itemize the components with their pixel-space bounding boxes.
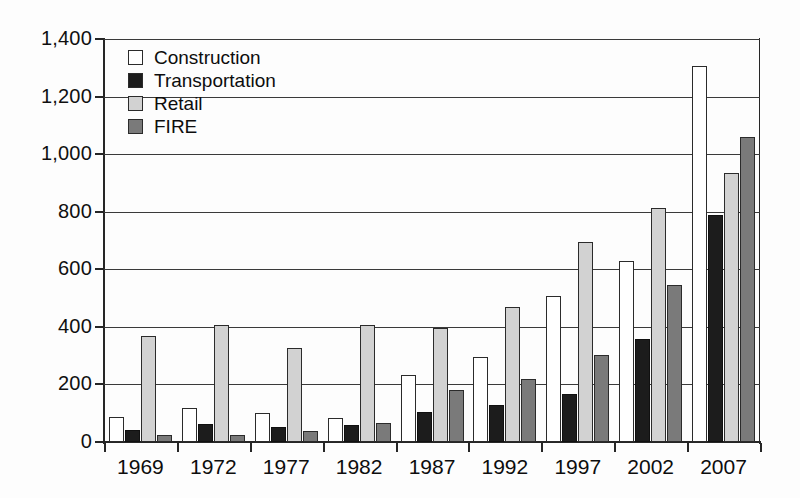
bar-fire-1972	[230, 435, 245, 442]
bar-transportation-1997	[562, 394, 577, 442]
bar-construction-2007	[692, 66, 707, 442]
x-axis-tick-mark	[614, 443, 616, 452]
bar-retail-1982	[360, 325, 375, 442]
y-axis-tick-label: 1,400	[41, 28, 92, 48]
bar-construction-1987	[401, 375, 416, 442]
x-axis-tick-label-1977: 1977	[250, 455, 323, 479]
legend-swatch-construction-icon	[128, 50, 143, 65]
bar-transportation-1977	[271, 427, 286, 442]
x-axis-tick-mark	[541, 443, 543, 452]
x-axis-tick-mark	[468, 443, 470, 452]
legend-swatch-retail-icon	[128, 96, 143, 111]
bar-construction-2002	[619, 261, 634, 442]
legend-swatch-fire-icon	[128, 119, 143, 134]
bar-fire-2007	[740, 137, 755, 442]
bar-fire-1997	[594, 355, 609, 442]
bar-group-2002	[619, 39, 682, 442]
bar-transportation-2002	[635, 339, 650, 442]
x-axis-tick-mark	[760, 443, 762, 452]
bar-construction-1992	[473, 357, 488, 442]
x-axis-tick-label-1972: 1972	[177, 455, 250, 479]
bar-retail-1997	[578, 242, 593, 442]
legend: ConstructionTransportationRetailFIRE	[128, 46, 378, 138]
x-axis-tick-label-1982: 1982	[323, 455, 396, 479]
y-axis: 02004006008001,0001,2001,400	[0, 0, 92, 498]
bar-transportation-1972	[198, 424, 213, 442]
x-axis-tick-label-1992: 1992	[468, 455, 541, 479]
bar-retail-1972	[214, 325, 229, 442]
bar-fire-1977	[303, 431, 318, 442]
y-axis-tick-label: 1,000	[41, 143, 92, 163]
legend-item-retail: Retail	[128, 92, 378, 115]
x-axis-tick-label-1997: 1997	[541, 455, 614, 479]
x-axis-tick-mark	[396, 443, 398, 452]
bar-retail-2002	[651, 208, 666, 442]
x-axis-tick-mark	[177, 443, 179, 452]
y-axis-tick-label: 200	[58, 373, 92, 393]
y-axis-tick-label: 400	[58, 316, 92, 336]
bar-fire-1969	[157, 435, 172, 442]
bar-construction-1977	[255, 413, 270, 442]
bar-transportation-1982	[344, 425, 359, 442]
bar-chart: 02004006008001,0001,2001,400 19691972197…	[0, 0, 800, 498]
x-axis-tick-mark	[323, 443, 325, 452]
bar-retail-1977	[287, 348, 302, 442]
bar-retail-1987	[433, 328, 448, 442]
bar-transportation-2007	[708, 215, 723, 442]
x-axis-tick-label-2002: 2002	[614, 455, 687, 479]
legend-label: Transportation	[154, 70, 276, 91]
bar-construction-1982	[328, 418, 343, 442]
bar-construction-1972	[182, 408, 197, 442]
legend-item-transportation: Transportation	[128, 69, 378, 92]
bar-group-1992	[473, 39, 536, 442]
bar-group-1997	[546, 39, 609, 442]
y-axis-tick-label: 600	[58, 258, 92, 278]
legend-label: Construction	[154, 47, 261, 68]
bar-transportation-1969	[125, 430, 140, 442]
y-axis-tick-label: 800	[58, 201, 92, 221]
bar-fire-1982	[376, 423, 391, 442]
bar-fire-2002	[667, 285, 682, 442]
x-axis-tick-label-1969: 1969	[104, 455, 177, 479]
legend-item-fire: FIRE	[128, 115, 378, 138]
bar-retail-1992	[505, 307, 520, 442]
legend-item-construction: Construction	[128, 46, 378, 69]
bar-transportation-1987	[417, 412, 432, 442]
bar-fire-1987	[449, 390, 464, 442]
bar-retail-2007	[724, 173, 739, 442]
x-axis-tick-mark	[104, 443, 106, 452]
bar-construction-1969	[109, 417, 124, 442]
legend-label: Retail	[154, 93, 203, 114]
bar-fire-1992	[521, 379, 536, 442]
bar-group-1987	[401, 39, 464, 442]
bar-construction-1997	[546, 296, 561, 442]
y-axis-tick-label: 0	[81, 431, 92, 451]
x-axis-tick-label-2007: 2007	[687, 455, 760, 479]
x-axis-tick-label-1987: 1987	[396, 455, 469, 479]
legend-label: FIRE	[154, 116, 197, 137]
bar-retail-1969	[141, 336, 156, 443]
y-axis-tick-label: 1,200	[41, 86, 92, 106]
legend-swatch-transportation-icon	[128, 73, 143, 88]
bar-group-2007	[692, 39, 755, 442]
x-axis-tick-mark	[250, 443, 252, 452]
bar-transportation-1992	[489, 405, 504, 442]
x-axis-tick-mark	[687, 443, 689, 452]
